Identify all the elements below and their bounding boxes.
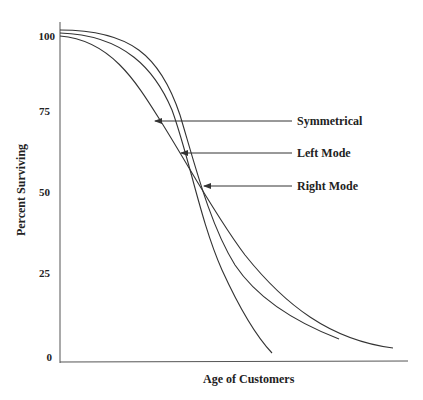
svg-text:Left Mode: Left Mode bbox=[297, 146, 351, 160]
annotation-right-mode: Right Mode bbox=[203, 179, 359, 193]
y-tick-50: 50 bbox=[39, 186, 51, 198]
y-tick-25: 25 bbox=[39, 267, 51, 279]
curve-right-mode bbox=[60, 33, 272, 353]
x-axis-label: Age of Customers bbox=[203, 372, 295, 386]
annotation-symmetrical: Symmetrical bbox=[154, 114, 363, 128]
x-axis bbox=[60, 361, 408, 362]
y-axis-label: Percent Surviving bbox=[14, 144, 28, 236]
y-tick-0: 0 bbox=[47, 351, 53, 363]
svg-text:Right Mode: Right Mode bbox=[297, 179, 359, 193]
annotation-left-mode: Left Mode bbox=[180, 146, 351, 160]
arrowhead-icon bbox=[203, 183, 211, 189]
survival-chart: 100 75 50 25 0 Percent Surviving Age of … bbox=[0, 0, 423, 400]
svg-text:Symmetrical: Symmetrical bbox=[297, 114, 363, 128]
y-tick-75: 75 bbox=[39, 105, 51, 117]
arrowhead-icon bbox=[154, 118, 162, 124]
y-tick-100: 100 bbox=[39, 30, 56, 42]
